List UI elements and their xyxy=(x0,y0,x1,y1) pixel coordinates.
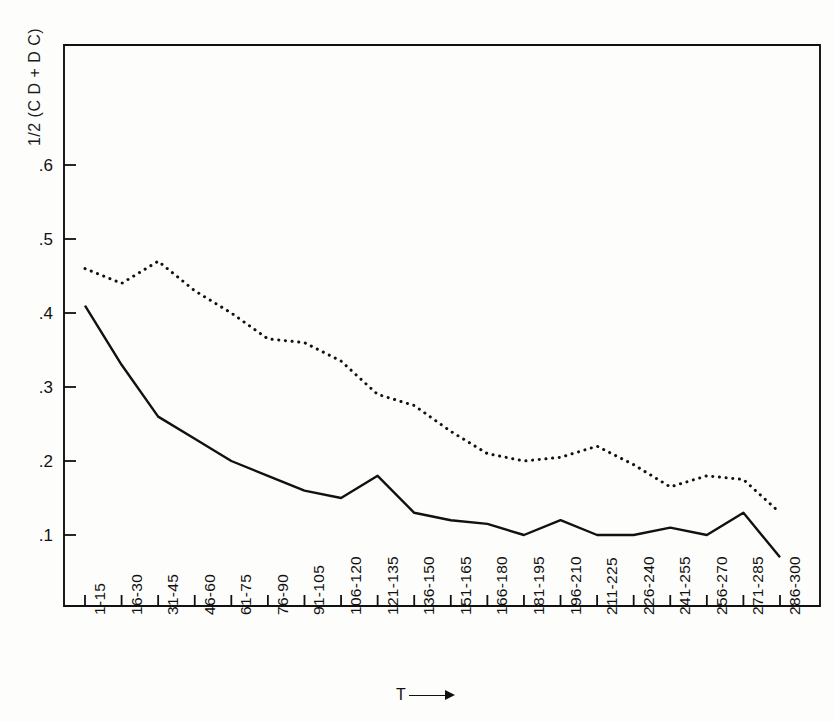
x-category-label: 46-60 xyxy=(201,574,219,615)
x-category-label: 226-240 xyxy=(640,556,658,615)
x-category-label: 256-270 xyxy=(713,556,731,615)
x-axis-title-text: T xyxy=(396,686,406,704)
y-tick-label: .1 xyxy=(39,526,53,545)
right-arrow-icon xyxy=(409,690,455,701)
plot-area: .6.5.4.3.2.1 xyxy=(0,0,835,722)
x-category-label: 121-135 xyxy=(384,556,402,615)
x-category-label: 76-90 xyxy=(274,574,292,615)
chart-figure: 1/2 (C D + D C) .6.5.4.3.2.1 1-1516-3031… xyxy=(0,0,835,722)
x-category-label: 1-15 xyxy=(91,583,109,615)
y-tick-label: .6 xyxy=(39,156,53,175)
y-tick-label: .5 xyxy=(39,230,53,249)
x-category-label: 31-45 xyxy=(164,574,182,615)
y-tick-label: .3 xyxy=(39,378,53,397)
x-category-label: 196-210 xyxy=(567,556,585,615)
x-category-label: 106-120 xyxy=(347,556,365,615)
x-category-label: 151-165 xyxy=(457,556,475,615)
x-category-label: 16-30 xyxy=(128,574,146,615)
x-category-label: 136-150 xyxy=(420,556,438,615)
x-category-label: 271-285 xyxy=(749,556,767,615)
y-axis-ticks: .6.5.4.3.2.1 xyxy=(39,156,76,545)
x-category-label: 181-195 xyxy=(530,556,548,615)
x-category-label: 286-300 xyxy=(786,556,804,615)
y-tick-label: .4 xyxy=(39,304,53,323)
series-dotted-curve xyxy=(85,261,780,513)
x-category-label: 211-225 xyxy=(603,557,621,615)
x-category-label: 241-255 xyxy=(676,556,694,615)
data-series-group xyxy=(85,261,780,557)
series-solid-curve xyxy=(85,306,780,558)
axes-frame xyxy=(64,45,820,606)
x-category-label: 166-180 xyxy=(493,556,511,615)
x-axis-title: T xyxy=(396,686,455,704)
x-category-label: 61-75 xyxy=(237,574,255,615)
x-category-label: 91-105 xyxy=(310,565,328,615)
y-tick-label: .2 xyxy=(39,452,53,471)
